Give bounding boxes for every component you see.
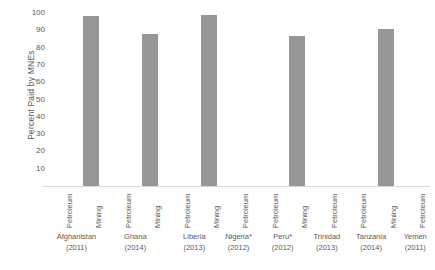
category-label-slot: Mining [194,188,223,228]
group-label-afghanistan: Afghanistan(2011) [47,231,106,253]
category-label-petroleum: Petroleum [272,188,280,228]
group-country: Ghana [124,232,147,241]
group-country: Tanzania [356,232,386,241]
category-labels: PetroleumMiningPetroleumMiningPetroleumM… [47,188,430,228]
category-label-slot: Petroleum [253,188,282,228]
group-country: Trinidad [313,232,340,241]
category-label-slot: Petroleum [312,188,341,228]
y-tick-70: 70 [28,61,45,69]
group-year: (2011) [401,242,430,253]
category-label-mining: Mining [301,188,309,228]
category-label-slot: Petroleum [224,188,253,228]
bar-slot [76,13,105,186]
group-year: (2011) [47,242,106,253]
category-label-petroleum: Petroleum [360,188,368,228]
category-label-mining: Mining [213,188,221,228]
group-label-yemen: Yemen(2011) [401,231,430,253]
category-label-slot: Mining [371,188,400,228]
category-label-mining: Mining [390,188,398,228]
y-tick-30: 30 [28,130,45,138]
y-tick-0: - [28,182,45,190]
category-label-slot: Petroleum [47,188,76,228]
category-label-slot: Mining [135,188,164,228]
category-label-slot: Petroleum [165,188,194,228]
bar-slot [135,13,164,186]
plot-area [47,13,430,186]
bar [289,36,305,187]
y-axis-tick-labels: 100908070605040302010- [28,13,45,186]
bar [378,29,394,186]
category-label-slot: Petroleum [342,188,371,228]
group-country: Yemen [404,232,427,241]
category-label-petroleum: Petroleum [66,188,74,228]
category-label-slot: Mining [76,188,105,228]
category-label-slot: Mining [283,188,312,228]
x-axis-line [45,186,430,187]
bar-slot [194,13,223,186]
y-tick-20: 20 [28,147,45,155]
bar [142,34,158,186]
group-label-liberia: Liberia(2013) [165,231,224,253]
bar-slot [371,13,400,186]
y-tick-50: 50 [28,96,45,104]
scan-artifact [45,262,375,268]
y-tick-10: 10 [28,165,45,173]
bar-slot [312,13,341,186]
bar-slot [401,13,430,186]
y-tick-100: 100 [28,9,45,17]
bar-slot [253,13,282,186]
category-label-petroleum: Petroleum [419,188,427,228]
category-label-slot: Petroleum [106,188,135,228]
category-label-petroleum: Petroleum [242,188,250,228]
group-label-trinidad: Trinidad(2013) [312,231,341,253]
category-label-mining: Mining [95,188,103,228]
group-year: (2012) [253,242,312,253]
y-tick-60: 60 [28,78,45,86]
group-year: (2013) [165,242,224,253]
bar-slot [47,13,76,186]
y-tick-90: 90 [28,26,45,34]
category-label-petroleum: Petroleum [184,188,192,228]
group-year: (2012) [224,242,253,253]
bar [83,16,99,186]
category-label-petroleum: Petroleum [331,188,339,228]
group-country: Nigeria* [225,232,252,241]
bar-chart: Percent Paid by MNEs 1009080706050403020… [0,0,435,270]
category-label-slot: Petroleum [401,188,430,228]
group-label-nigeria: Nigeria*(2012) [224,231,253,253]
category-label-mining: Mining [154,188,162,228]
group-year: (2014) [106,242,165,253]
bar [201,15,217,186]
group-label-tanzania: Tanzania(2014) [342,231,401,253]
group-country: Liberia [183,232,206,241]
group-country: Peru* [273,232,292,241]
group-labels: Afghanistan(2011)Ghana(2014)Liberia(2013… [47,231,430,257]
y-tick-80: 80 [28,44,45,52]
bar-slot [165,13,194,186]
y-tick-40: 40 [28,113,45,121]
group-label-ghana: Ghana(2014) [106,231,165,253]
bar-slot [342,13,371,186]
group-country: Afghanistan [57,232,97,241]
bar-slot [283,13,312,186]
group-label-peru: Peru*(2012) [253,231,312,253]
group-year: (2013) [312,242,341,253]
bar-slot [224,13,253,186]
bar-slot [106,13,135,186]
category-label-petroleum: Petroleum [125,188,133,228]
group-year: (2014) [342,242,401,253]
